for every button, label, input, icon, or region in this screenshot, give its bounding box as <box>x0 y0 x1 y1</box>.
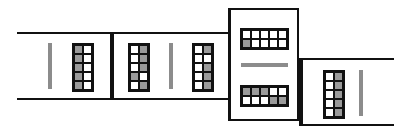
empty-cell <box>130 54 139 63</box>
empty-cell <box>325 99 334 108</box>
filled-cell <box>74 72 83 81</box>
filled-cell <box>74 63 83 72</box>
empty-cell <box>203 54 212 63</box>
panel-3-bottom-grid <box>240 85 289 107</box>
empty-cell <box>83 63 92 72</box>
empty-cell <box>260 96 269 105</box>
panel-1-divider-bar <box>48 43 52 89</box>
filled-cell <box>139 81 148 90</box>
empty-cell <box>260 30 269 39</box>
filled-cell <box>334 90 343 99</box>
filled-cell <box>139 54 148 63</box>
filled-cell <box>139 45 148 54</box>
panel-1-bottom-edge <box>17 98 112 100</box>
empty-cell <box>194 72 203 81</box>
joint-1-2 <box>110 32 114 100</box>
panel-4-grid <box>323 70 345 119</box>
empty-cell <box>83 72 92 81</box>
filled-cell <box>242 87 251 96</box>
empty-cell <box>83 81 92 90</box>
filled-cell <box>334 108 343 117</box>
filled-cell <box>130 72 139 81</box>
filled-cell <box>278 96 287 105</box>
empty-cell <box>269 39 278 48</box>
panel-2-bottom-edge <box>112 98 230 100</box>
empty-cell <box>194 81 203 90</box>
empty-cell <box>130 45 139 54</box>
empty-cell <box>242 30 251 39</box>
filled-cell <box>74 81 83 90</box>
empty-cell <box>278 87 287 96</box>
empty-cell <box>325 108 334 117</box>
empty-cell <box>251 39 260 48</box>
panel-4-top-edge <box>302 58 394 60</box>
filled-cell <box>139 63 148 72</box>
empty-cell <box>278 39 287 48</box>
filled-cell <box>334 99 343 108</box>
filled-cell <box>74 45 83 54</box>
empty-cell <box>194 45 203 54</box>
panel-2-divider-bar <box>169 43 173 89</box>
filled-cell <box>203 81 212 90</box>
filled-cell <box>251 87 260 96</box>
empty-cell <box>260 39 269 48</box>
domino-chain-diagram: Sequence of four tiles joined edge to ed… <box>0 0 410 134</box>
empty-cell <box>83 45 92 54</box>
empty-cell <box>325 72 334 81</box>
panel-1-top-edge <box>17 32 112 34</box>
filled-cell <box>203 63 212 72</box>
panel-2-right-grid <box>192 43 214 92</box>
empty-cell <box>269 30 278 39</box>
empty-cell <box>194 54 203 63</box>
empty-cell <box>242 96 251 105</box>
empty-cell <box>325 81 334 90</box>
empty-cell <box>130 63 139 72</box>
panel-4-divider-bar <box>359 70 363 116</box>
empty-cell <box>325 90 334 99</box>
filled-cell <box>260 87 269 96</box>
empty-cell <box>251 96 260 105</box>
joint-3-4 <box>299 58 303 126</box>
filled-cell <box>269 96 278 105</box>
filled-cell <box>74 54 83 63</box>
empty-cell <box>130 81 139 90</box>
panel-2-left-grid <box>128 43 150 92</box>
empty-cell <box>194 63 203 72</box>
panel-3-top-grid <box>240 28 289 50</box>
filled-cell <box>242 39 251 48</box>
empty-cell <box>278 30 287 39</box>
panel-4-bottom-edge <box>302 124 394 126</box>
filled-cell <box>334 81 343 90</box>
empty-cell <box>269 87 278 96</box>
filled-cell <box>203 72 212 81</box>
empty-cell <box>251 30 260 39</box>
empty-cell <box>139 72 148 81</box>
filled-cell <box>334 72 343 81</box>
empty-cell <box>83 54 92 63</box>
filled-cell <box>203 45 212 54</box>
panel-1-grid <box>72 43 94 92</box>
panel-2-top-edge <box>112 32 230 34</box>
panel-3-divider-bar <box>241 63 288 67</box>
